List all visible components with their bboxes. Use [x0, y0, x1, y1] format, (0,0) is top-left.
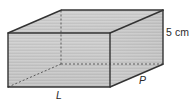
figure-screenshot: 5 cm P L	[0, 0, 196, 104]
rectangular-prism-figure	[0, 0, 196, 104]
depth-label: P	[139, 75, 146, 86]
prism-front-face-grain	[8, 33, 110, 87]
height-label: 5 cm	[166, 27, 189, 38]
length-label: L	[56, 90, 62, 101]
